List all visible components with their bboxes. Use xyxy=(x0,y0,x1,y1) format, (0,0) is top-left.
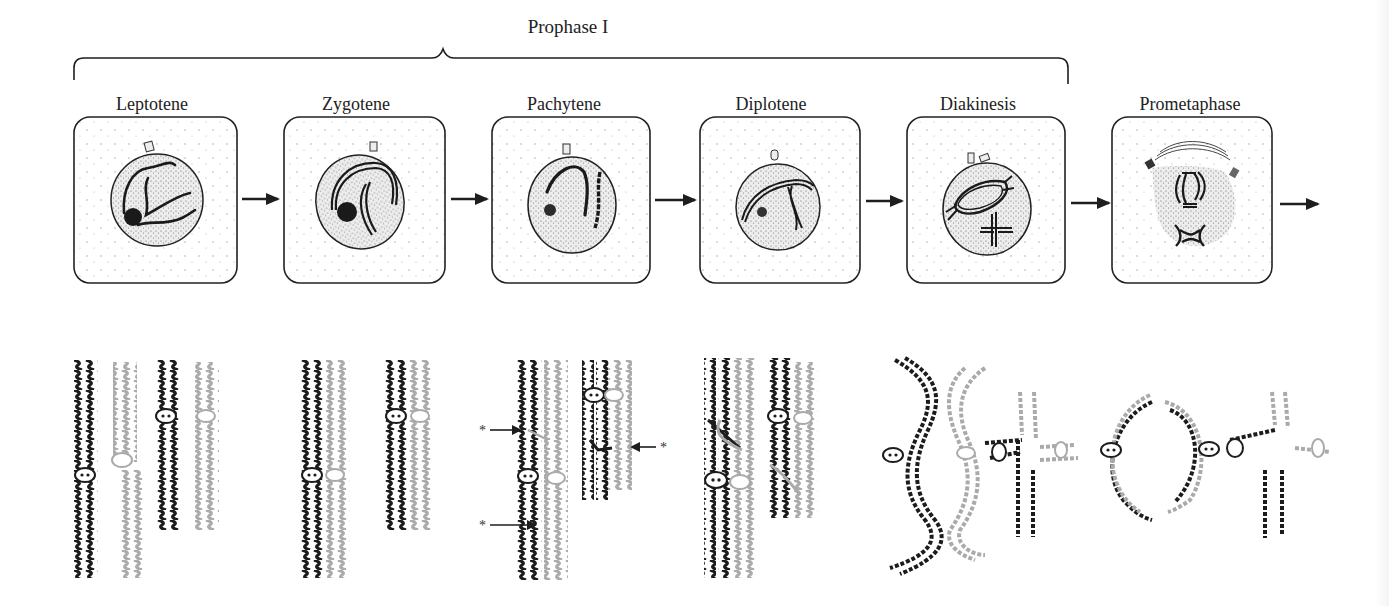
nucleolus xyxy=(337,202,357,222)
centromere xyxy=(112,453,132,467)
cell-diakinesis xyxy=(907,117,1065,283)
nucleolus xyxy=(757,207,767,217)
centrosome-icon xyxy=(144,141,154,152)
chromosomes-diakinesis xyxy=(883,358,1078,574)
chromosomes-pachytene xyxy=(516,360,632,580)
centrosome-icon xyxy=(771,150,778,160)
cell-zygotene xyxy=(284,117,445,283)
cell-prometaphase xyxy=(1112,117,1272,283)
cell-pachytene xyxy=(492,117,650,283)
centrosome-icon xyxy=(563,144,570,154)
nucleolus xyxy=(544,204,556,216)
chromosomes-prometaphase xyxy=(1101,392,1330,538)
chromosomes-diplotene xyxy=(704,358,818,578)
cell-diplotene xyxy=(700,117,860,283)
crossover-marker-star: * xyxy=(479,423,486,438)
chromosomes-leptotene xyxy=(74,360,219,578)
prophase-bracket xyxy=(74,49,1068,84)
page-edge-shadow xyxy=(1375,0,1389,606)
cell-leptotene xyxy=(74,117,237,283)
chromosomes-zygotene xyxy=(300,360,433,578)
crossover-markers-pachytene: * * * xyxy=(479,423,667,533)
crossover-marker-star: * xyxy=(479,518,486,533)
centromere xyxy=(75,468,95,482)
centrosome-icon xyxy=(370,142,377,151)
crossover-marker-star: * xyxy=(660,440,667,455)
meiosis-diagram: * * * xyxy=(0,0,1389,606)
centrosome-icon xyxy=(968,153,974,163)
